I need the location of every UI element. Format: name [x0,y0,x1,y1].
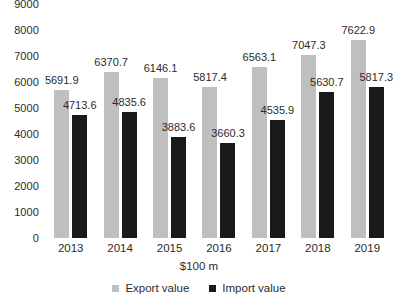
y-axis-tick: 6000 [14,77,39,88]
x-axis-tick: 2013 [46,241,95,255]
x-axis-tick: 2015 [145,241,194,255]
bar-import[interactable]: 3883.6 [171,137,186,238]
y-axis-tick: 3000 [14,155,39,166]
x-axis-tick: 2019 [343,241,392,255]
bar-value-label: 7622.9 [341,25,375,36]
y-axis-tick: 0 [33,233,39,244]
bar-export[interactable]: 5817.4 [202,87,217,238]
y-axis-tick: 7000 [14,51,39,62]
bar-group: 7047.35630.7 [293,4,342,238]
legend-swatch-import-icon [209,285,216,292]
bar-value-label: 5630.7 [310,77,344,88]
bar-group: 6146.13883.6 [145,4,194,238]
bar-value-label: 5691.9 [45,75,79,86]
bar-value-label: 6370.7 [94,57,128,68]
x-axis-title: $100 m [0,259,398,273]
y-axis-tick: 8000 [14,25,39,36]
bar-export[interactable]: 6146.1 [153,78,168,238]
bar-import[interactable]: 4535.9 [270,120,285,238]
y-axis-tick: 9000 [14,0,39,10]
y-axis-tick: 5000 [14,103,39,114]
bar-import[interactable]: 4835.6 [122,112,137,238]
y-axis-tick: 1000 [14,207,39,218]
x-axis-tick: 2018 [293,241,342,255]
bar-value-label: 4713.6 [63,100,97,111]
x-axis-tick: 2016 [194,241,243,255]
bar-import[interactable]: 5630.7 [319,92,334,238]
bar-value-label: 4835.6 [112,97,146,108]
legend-item-export: Export value [112,281,189,295]
legend-label-export: Export value [125,281,189,295]
y-axis-tick: 4000 [14,129,39,140]
chart-legend: Export value Import value [0,281,398,295]
bar-value-label: 5817.4 [193,72,227,83]
bar-group: 7622.95817.3 [343,4,392,238]
bar-group: 6563.14535.9 [244,4,293,238]
y-axis-tick: 2000 [14,181,39,192]
x-axis: 2013201420152016201720182019 [46,241,392,259]
legend-label-import: Import value [222,281,285,295]
plot-area: 5691.94713.66370.74835.66146.13883.65817… [46,4,392,238]
bar-value-label: 5817.3 [359,72,393,83]
legend-swatch-export-icon [112,285,119,292]
legend-item-import: Import value [209,281,285,295]
bar-value-label: 3660.3 [211,128,245,139]
x-axis-tick: 2017 [244,241,293,255]
bar-value-label: 4535.9 [261,105,295,116]
bar-value-label: 7047.3 [292,40,326,51]
bar-value-label: 6563.1 [243,52,277,63]
bar-export[interactable]: 7622.9 [351,40,366,238]
bar-group: 5817.43660.3 [194,4,243,238]
bar-import[interactable]: 3660.3 [220,143,235,238]
bar-import[interactable]: 5817.3 [369,87,384,238]
bar-group: 6370.74835.6 [95,4,144,238]
y-axis: 0100020003000400050006000700080009000 [0,0,44,245]
bar-export[interactable]: 5691.9 [54,90,69,238]
bar-export[interactable]: 6563.1 [252,67,267,238]
bar-value-label: 6146.1 [144,63,178,74]
bar-group: 5691.94713.6 [46,4,95,238]
bar-chart: 0100020003000400050006000700080009000 56… [0,0,398,303]
x-axis-tick: 2014 [95,241,144,255]
bar-value-label: 3883.6 [162,122,196,133]
bar-import[interactable]: 4713.6 [72,115,87,238]
